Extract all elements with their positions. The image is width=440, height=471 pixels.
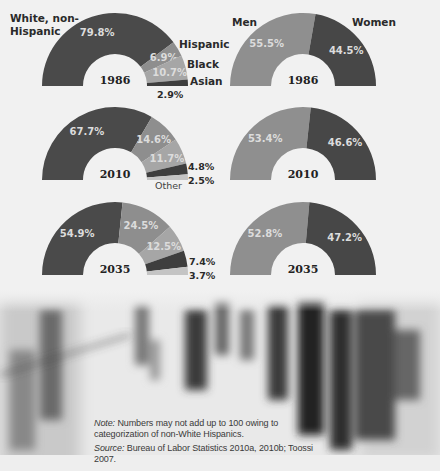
pct-label: 14.6%	[136, 134, 171, 145]
year-label: 1986	[288, 74, 319, 87]
source-label: Source:	[94, 443, 124, 453]
source-text: Bureau of Labor Statistics 2010a, 2010b;…	[94, 443, 313, 464]
label-white-non-hispanic-2: Hispanic	[10, 25, 61, 37]
pct-label: 44.5%	[329, 45, 364, 56]
pct-asian-1986: 2.9%	[157, 89, 184, 100]
pct-label: 11.7%	[150, 153, 185, 164]
label-hispanic: Hispanic	[179, 38, 230, 50]
race-chart-2010: 67.7%14.6%11.7%2010	[42, 107, 188, 181]
year-label: 1986	[100, 74, 131, 87]
pct-asian-2035: 7.4%	[189, 256, 216, 267]
label-white-non-hispanic-1: White, non-	[10, 12, 79, 24]
label-asian: Asian	[190, 75, 223, 87]
workforce-charts: 79.8%6.9%10.7%1986 55.5%44.5%1986 67.7%1…	[0, 0, 440, 300]
segment-white-non-hispanic	[42, 107, 152, 180]
pct-asian-2010: 4.8%	[188, 161, 215, 172]
note-label: Note:	[94, 418, 115, 428]
pct-label: 53.4%	[248, 133, 283, 144]
year-label: 2010	[288, 168, 319, 181]
label-men: Men	[232, 16, 257, 28]
race-chart-1986: 79.8%6.9%10.7%1986	[42, 13, 188, 87]
race-chart-2035: 54.9%24.5%12.5%2035	[42, 202, 188, 276]
pct-other-2010: 2.5%	[188, 175, 215, 186]
pct-label: 10.7%	[152, 67, 187, 78]
pct-other-2035: 3.7%	[189, 270, 216, 281]
chart-note: Note: Numbers may not add up to 100 owin…	[94, 418, 324, 468]
pct-label: 55.5%	[249, 38, 284, 49]
pct-label: 12.5%	[146, 241, 181, 252]
year-label: 2035	[288, 263, 319, 276]
gender-chart-2035: 52.8%47.2%2035	[230, 202, 376, 276]
note-paragraph: Note: Numbers may not add up to 100 owin…	[94, 418, 324, 440]
pct-label: 54.9%	[60, 228, 95, 239]
note-text: Numbers may not add up to 100 owing to c…	[94, 418, 278, 439]
gender-chart-2010: 53.4%46.6%2010	[230, 107, 376, 181]
pct-label: 47.2%	[327, 232, 362, 243]
pct-label: 52.8%	[247, 228, 282, 239]
label-women: Women	[352, 16, 396, 28]
pct-label: 46.6%	[328, 137, 363, 148]
year-label: 2035	[100, 263, 131, 276]
pct-label: 79.8%	[80, 27, 115, 38]
source-paragraph: Source: Bureau of Labor Statistics 2010a…	[94, 443, 324, 465]
pct-label: 67.7%	[70, 126, 105, 137]
pct-label: 24.5%	[124, 220, 159, 231]
label-other: Other	[155, 180, 182, 191]
label-black: Black	[187, 58, 220, 70]
year-label: 2010	[100, 168, 131, 181]
